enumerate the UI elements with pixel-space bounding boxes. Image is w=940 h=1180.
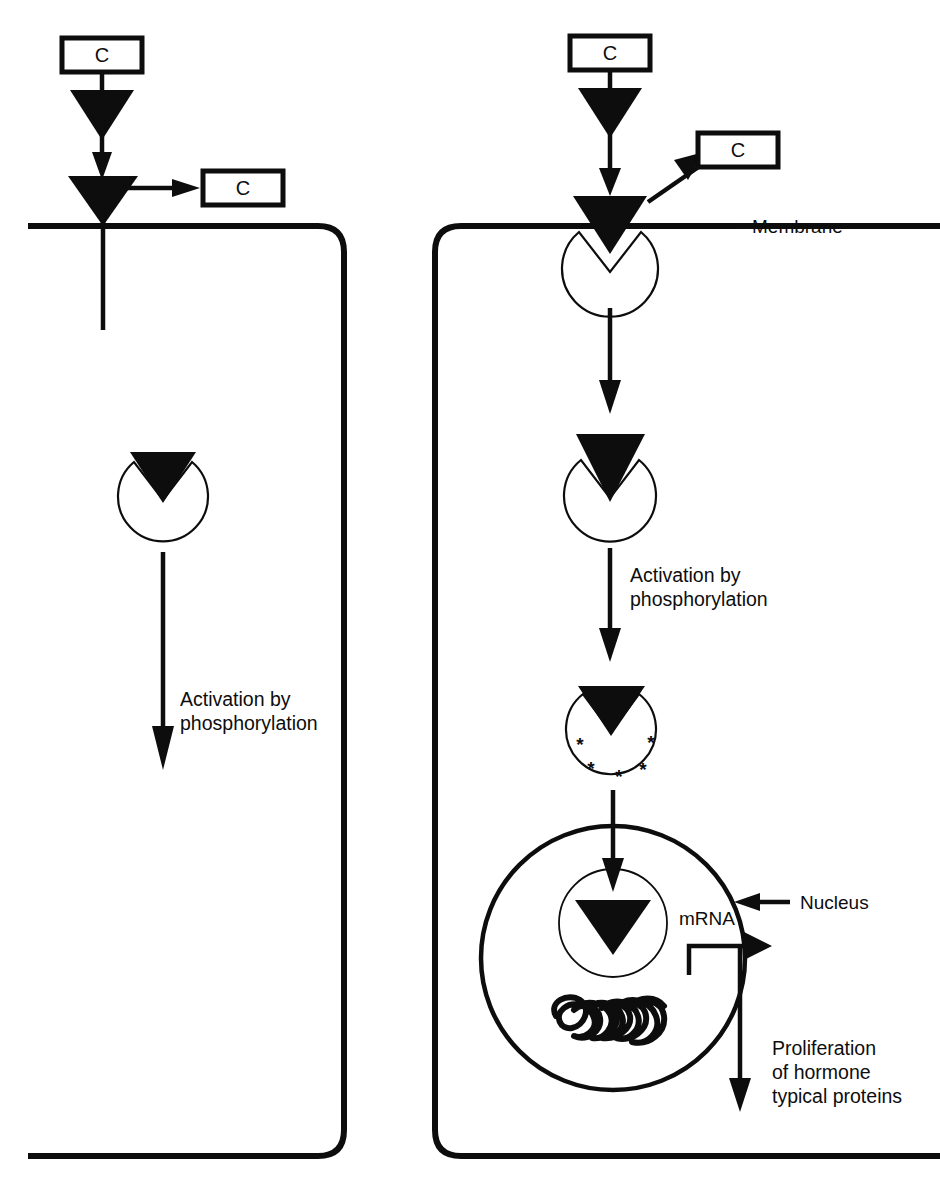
chromatin-tangle: [554, 997, 664, 1043]
right-internalization-arrow-head: [599, 380, 621, 414]
left-released-ligand-label: C: [236, 177, 250, 199]
proliferation-label-line1: Proliferation: [772, 1037, 876, 1059]
proliferation-label-line3: typical proteins: [772, 1085, 902, 1107]
right-activation-arrow-head: [599, 628, 621, 662]
left-release-arrow-head: [172, 179, 200, 197]
proliferation-label-line2: of hormone: [772, 1061, 871, 1083]
left-cytoplasmic-receptor-ligand: [130, 452, 196, 503]
right-cell-membrane-outline: [435, 226, 940, 1156]
left-activation-label-line1: Activation by: [180, 688, 291, 710]
phospho-asterisk-5: *: [639, 759, 647, 780]
nuclear-receptor-ligand: [575, 900, 651, 955]
phospho-asterisk-2: *: [647, 732, 655, 753]
right-released-ligand-label: C: [731, 139, 745, 161]
mrna-export-arrow-head: [729, 1078, 751, 1112]
left-binding-arrow-head: [92, 152, 112, 180]
right-binding-arrow-head: [599, 168, 621, 196]
left-activation-arrow-head: [152, 726, 174, 770]
right-activation-label-line1: Activation by: [630, 564, 741, 586]
phospho-asterisk-4: *: [615, 766, 623, 787]
left-activation-label-line2: phosphorylation: [180, 712, 318, 734]
mrna-label: mRNA: [679, 908, 735, 929]
phospho-asterisk-3: *: [587, 758, 595, 779]
phospho-asterisk-1: *: [576, 734, 584, 755]
signalling-pathway-diagram: C C Activation by p: [0, 0, 940, 1180]
mrna-arrow-head: [744, 932, 772, 960]
nuclear-translocation-arrow-head: [602, 858, 624, 892]
left-pathway-panel: C C Activation by p: [28, 38, 344, 1156]
right-pathway-panel: C Membrane C: [435, 36, 940, 1156]
diagram-canvas: C C Activation by p: [0, 0, 940, 1180]
right-phosphorylated-receptor-ligand: [578, 686, 645, 736]
right-activation-label-line2: phosphorylation: [630, 588, 768, 610]
left-top-ligand-label: C: [95, 44, 109, 66]
right-top-ligand-label: C: [603, 42, 617, 64]
nucleus-leader-arrow-head: [734, 893, 760, 911]
nucleus-label: Nucleus: [800, 892, 869, 913]
membrane-label: Membrane: [752, 216, 843, 237]
